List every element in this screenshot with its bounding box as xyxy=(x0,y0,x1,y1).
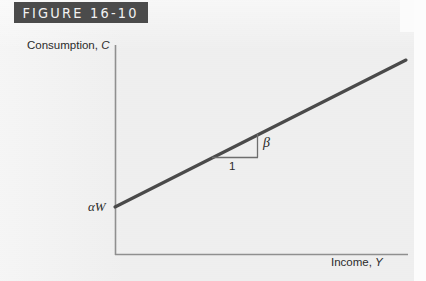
y-axis-variable: C xyxy=(101,39,109,51)
x-axis-label: Income, Y xyxy=(331,256,383,268)
figure-container: FIGURE 16-10 Consumption, C Income, Y αW… xyxy=(0,0,426,281)
consumption-function-line xyxy=(115,60,406,207)
y-axis-label-text: Consumption, xyxy=(27,39,101,51)
x-axis-label-text: Income, xyxy=(331,256,375,268)
slope-run-label: 1 xyxy=(229,160,235,172)
x-axis-variable: Y xyxy=(375,256,383,268)
y-axis-label: Consumption, C xyxy=(27,39,109,51)
intercept-label: αW xyxy=(88,199,106,215)
slope-rise-label: β xyxy=(263,135,270,151)
